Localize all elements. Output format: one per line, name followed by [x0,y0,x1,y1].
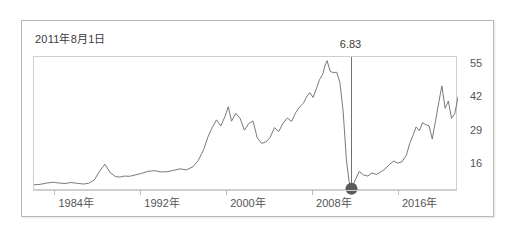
x-axis-tick-mark [54,190,55,195]
annotation-value-label: 6.83 [340,38,361,50]
y-axis-tick-label: 16 [470,157,482,169]
x-axis-tick-mark [312,190,313,195]
plot-area [33,56,457,190]
y-axis-tick-label: 29 [470,124,482,136]
y-axis-tick-label: 42 [470,90,482,102]
x-axis-tick-label: 1984年 [58,194,93,210]
x-axis-tick-label: 2008年 [316,194,351,210]
x-axis-tick-mark [398,190,399,195]
x-axis-tick-mark [140,190,141,195]
x-axis-tick-label: 2000年 [230,194,265,210]
x-axis-tick-label: 1992年 [144,194,179,210]
chart-card: 2011年8月1日 6.83 55422916 1984年1992年2000年2… [21,20,494,217]
annotation-marker-layer [34,57,458,191]
chart-title: 2011年8月1日 [35,30,106,46]
x-axis-tick-label: 2016年 [402,194,437,210]
y-axis-tick-label: 55 [470,57,482,69]
x-axis-tick-mark [226,190,227,195]
x-axis-line [33,190,457,191]
